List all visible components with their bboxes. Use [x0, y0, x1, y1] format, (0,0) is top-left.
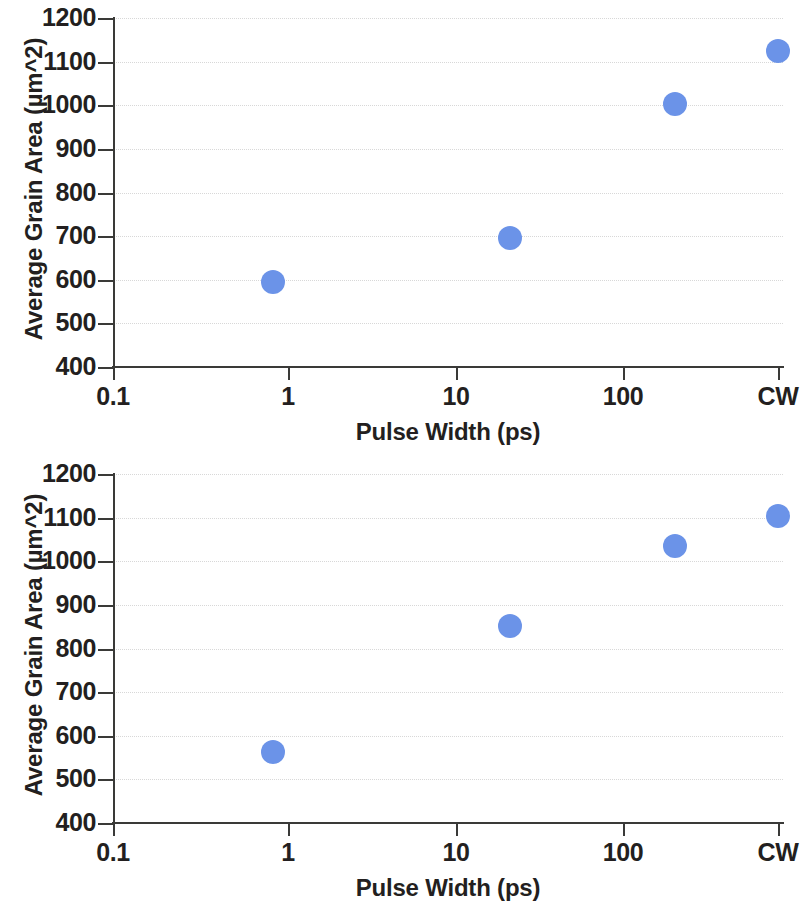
- y-axis-tick: [98, 149, 114, 151]
- gridline: [113, 474, 783, 475]
- y-axis-tick: [98, 280, 114, 282]
- x-axis-tick: [113, 823, 115, 836]
- y-axis-tick-label: 800: [0, 180, 96, 205]
- x-axis-tick-label: 1: [228, 384, 348, 409]
- x-axis-tick: [623, 823, 625, 836]
- y-axis-title-top: Average Grain Area (µm^2): [20, 24, 48, 354]
- y-axis-tick-label: 800: [0, 636, 96, 661]
- data-point-marker: [498, 226, 522, 250]
- y-axis-tick: [98, 605, 114, 607]
- y-axis-tick: [98, 193, 114, 195]
- x-axis-tick: [456, 823, 458, 836]
- y-axis-tick-label: 1100: [0, 49, 96, 74]
- x-axis-tick-label: 10: [396, 840, 516, 865]
- x-axis-title-top: Pulse Width (ps): [113, 418, 783, 446]
- gridline: [113, 62, 783, 63]
- data-point-marker: [261, 270, 285, 294]
- y-axis-tick: [98, 323, 114, 325]
- y-axis-tick: [98, 649, 114, 651]
- data-point-marker: [766, 39, 790, 63]
- y-axis-tick: [98, 692, 114, 694]
- x-axis-tick-label: 10: [396, 384, 516, 409]
- data-point-marker: [663, 534, 687, 558]
- y-axis-tick-label: 900: [0, 592, 96, 617]
- x-axis-line-bottom: [112, 822, 784, 824]
- y-axis-tick: [98, 62, 114, 64]
- gridline: [113, 518, 783, 519]
- y-axis-tick: [98, 18, 114, 20]
- gridline: [113, 561, 783, 562]
- y-axis-tick-label: 900: [0, 136, 96, 161]
- y-axis-title-bottom: Average Grain Area (µm^2): [20, 480, 48, 810]
- x-axis-tick-label: 0.1: [53, 384, 173, 409]
- data-point-marker: [261, 740, 285, 764]
- y-axis-tick-label: 400: [0, 354, 96, 379]
- gridline: [113, 236, 783, 237]
- y-axis-tick: [98, 823, 114, 825]
- y-axis-tick-label: 700: [0, 679, 96, 704]
- gridline: [113, 736, 783, 737]
- gridline: [113, 193, 783, 194]
- x-axis-tick-label: CW: [718, 840, 804, 865]
- y-axis-tick: [98, 367, 114, 369]
- x-axis-tick: [288, 823, 290, 836]
- gridline: [113, 649, 783, 650]
- data-point-marker: [766, 504, 790, 528]
- y-axis-tick-label: 400: [0, 810, 96, 835]
- x-axis-tick: [113, 367, 115, 380]
- y-axis-tick-label: 500: [0, 310, 96, 335]
- gridline: [113, 149, 783, 150]
- data-point-marker: [498, 614, 522, 638]
- gridline: [113, 605, 783, 606]
- gridline: [113, 779, 783, 780]
- x-axis-tick: [623, 367, 625, 380]
- x-axis-tick-label: 0.1: [53, 840, 173, 865]
- x-axis-tick: [288, 367, 290, 380]
- y-axis-tick-label: 700: [0, 223, 96, 248]
- y-axis-tick-label: 600: [0, 723, 96, 748]
- y-axis-tick-label: 600: [0, 267, 96, 292]
- y-axis-tick-label: 1200: [0, 461, 96, 486]
- y-axis-tick: [98, 105, 114, 107]
- y-axis-tick: [98, 474, 114, 476]
- plot-area-bottom: [113, 474, 783, 823]
- gridline: [113, 323, 783, 324]
- chart-panel-top: 400500600700800900100011001200 0.1110100…: [0, 0, 784, 456]
- y-axis-tick: [98, 561, 114, 563]
- x-axis-tick-label: 100: [563, 384, 683, 409]
- x-axis-tick-label: CW: [718, 384, 804, 409]
- data-point-marker: [663, 92, 687, 116]
- y-axis-tick-label: 1100: [0, 505, 96, 530]
- x-axis-title-bottom: Pulse Width (ps): [113, 874, 783, 902]
- y-axis-tick: [98, 736, 114, 738]
- y-axis-tick-label: 1200: [0, 5, 96, 30]
- chart-panel-bottom: 400500600700800900100011001200 0.1110100…: [0, 456, 784, 912]
- plot-area-top: [113, 18, 783, 367]
- y-axis-tick-label: 500: [0, 766, 96, 791]
- y-axis-tick-label: 1000: [0, 548, 96, 573]
- x-axis-tick-label: 100: [563, 840, 683, 865]
- x-axis-tick-label: 1: [228, 840, 348, 865]
- x-axis-tick: [778, 367, 780, 380]
- gridline: [113, 280, 783, 281]
- y-axis-tick-label: 1000: [0, 92, 96, 117]
- gridline: [113, 692, 783, 693]
- x-axis-tick: [778, 823, 780, 836]
- x-axis-tick: [456, 367, 458, 380]
- y-axis-tick: [98, 779, 114, 781]
- y-axis-tick: [98, 518, 114, 520]
- x-axis-line-top: [112, 366, 784, 368]
- y-axis-tick: [98, 236, 114, 238]
- gridline: [113, 18, 783, 19]
